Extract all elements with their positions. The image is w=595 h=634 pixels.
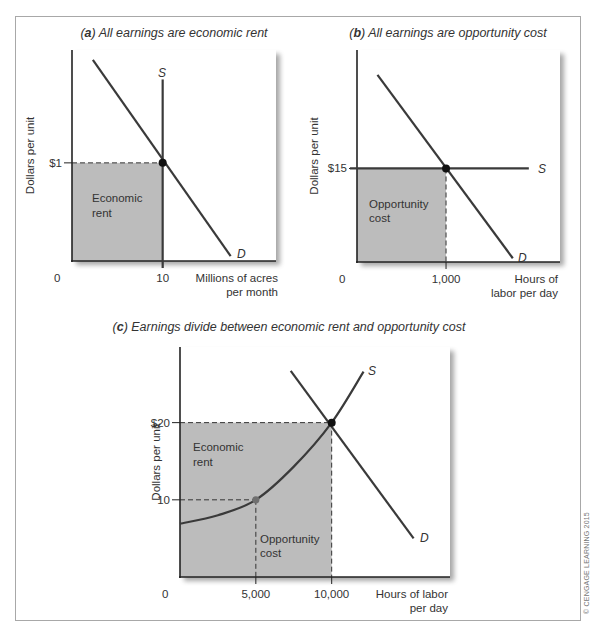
panel-b: (b) All earnings are opportunity cost Op…: [308, 26, 560, 299]
panel-a-origin-label: 0: [54, 272, 60, 284]
panel-c-y-axis-label: Dollars per unit: [150, 423, 162, 501]
panel-b-area-label-0-line1: Opportunity: [369, 198, 429, 210]
panel-a-supply-label: S: [158, 66, 166, 80]
panel-b-demand-label: D: [518, 251, 527, 265]
copyright-notice: © CENGAGE LEARNING 2015: [583, 512, 590, 614]
panel-c-origin-label: 0: [162, 588, 168, 600]
panel-b-equilibrium-point: [442, 164, 450, 172]
panel-b-title: (b) All earnings are opportunity cost: [349, 26, 547, 40]
panel-c-area-label-1-line1: Opportunity: [260, 533, 320, 545]
panel-b-supply-label: S: [538, 162, 546, 176]
panel-b-origin-label: 0: [339, 273, 345, 285]
panel-a-equilibrium-point: [159, 159, 167, 167]
panel-c: (c) Earnings divide between economic ren…: [113, 320, 467, 614]
panel-a-title: (a) All earnings are economic rent: [80, 26, 268, 40]
panel-c-x-tick-label: 10,000: [314, 588, 349, 600]
panel-c-x-tick-label: 5,000: [241, 588, 270, 600]
panel-a-shaded-region: [72, 163, 163, 261]
panel-a-x-tick-label: 10: [156, 272, 169, 284]
panel-c-area-label-1-line2: cost: [260, 547, 282, 559]
panel-c-secondary-point: [252, 496, 259, 503]
panel-a-area-label-0-line1: Economic: [92, 192, 143, 204]
panel-a: (a) All earnings are economic rent Econo…: [24, 26, 278, 298]
panel-c-x-axis-label-line1: Hours of labor: [376, 588, 448, 600]
panel-a-x-axis-label-line2: per month: [226, 286, 278, 298]
panel-a-area-label-0-line2: rent: [92, 207, 113, 219]
panel-c-x-axis-label-line2: per day: [410, 602, 449, 614]
panel-c-area-label-0-line2: rent: [193, 456, 214, 468]
panel-c-area-label-0-line1: Economic: [193, 441, 244, 453]
panel-b-y-tick-label: $15: [328, 162, 347, 174]
panel-a-y-tick-label: $1: [49, 157, 62, 169]
panel-b-y-axis-label: Dollars per unit: [308, 117, 320, 195]
panel-b-x-tick-label: 1,000: [432, 273, 461, 285]
panel-b-x-axis-label-line2: labor per day: [491, 287, 558, 299]
panel-a-demand-label: D: [237, 247, 246, 261]
figure: (a) All earnings are economic rent Econo…: [0, 0, 595, 634]
panel-c-title: (c) Earnings divide between economic ren…: [113, 320, 467, 334]
panel-c-supply-label: S: [368, 364, 376, 378]
panel-c-equilibrium-point: [328, 419, 336, 427]
panel-a-y-axis-label: Dollars per unit: [24, 116, 36, 194]
panel-c-demand-label: D: [420, 531, 429, 545]
panel-a-x-axis-label-line1: Millions of acres: [196, 272, 279, 284]
panel-b-x-axis-label-line1: Hours of: [515, 273, 559, 285]
panel-b-area-label-0-line2: cost: [369, 212, 391, 224]
